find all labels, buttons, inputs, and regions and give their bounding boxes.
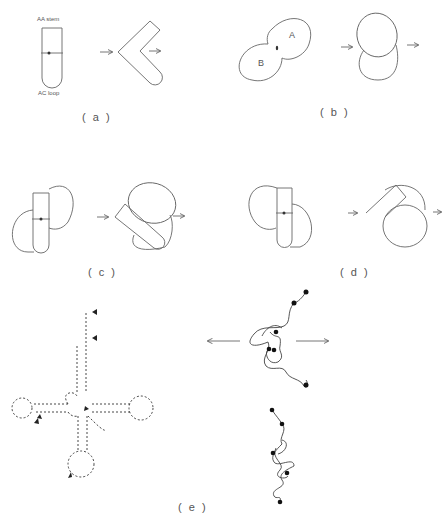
panel-d-lobe-bottom <box>383 205 427 247</box>
panel-c-lobe-right <box>49 186 73 229</box>
lobe-b-label: B <box>258 58 264 68</box>
ac-loop-label: AC loop <box>38 90 59 96</box>
panel-d-lobe-right <box>290 204 312 247</box>
figure-canvas <box>0 0 444 522</box>
panel-e-tangle-top-dots <box>267 290 309 388</box>
panel-b-two-lobes <box>239 19 311 81</box>
panel-b-label: ( b ) <box>320 106 350 118</box>
panel-d-rod <box>277 188 292 248</box>
panel-e-cloverleaf <box>12 313 153 477</box>
panel-c-lobe-left <box>12 210 34 252</box>
panel-d-lobe-left <box>249 186 277 230</box>
panel-d-label: ( d ) <box>340 266 370 278</box>
aa-stem-label: AA stem <box>37 16 59 22</box>
panel-b-lobe-top <box>352 9 402 62</box>
panel-e-tangle-top <box>250 292 307 387</box>
panel-c-rod <box>33 193 49 253</box>
panel-c-rod-bent <box>115 204 165 249</box>
panel-a-label: ( a ) <box>82 111 112 123</box>
panel-c-label: ( c ) <box>88 266 117 278</box>
panel-e-pointer-icons <box>34 309 97 478</box>
lobe-a-label: A <box>289 30 295 40</box>
panel-a-rod <box>41 28 63 88</box>
panel-a-bent-rod <box>118 21 162 85</box>
panel-e-label: ( e ) <box>178 501 208 513</box>
